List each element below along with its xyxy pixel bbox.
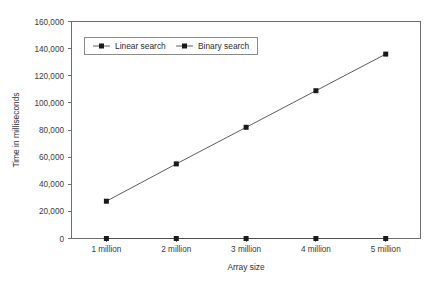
data-point-marker: [174, 236, 179, 241]
x-axis-title: Array size: [227, 262, 265, 272]
x-tick-label: 5 million: [371, 245, 401, 254]
y-tick-label: 0: [59, 235, 64, 244]
legend-marker-icon: [99, 44, 104, 49]
line-chart: 160,000 140,000 120,000 100,000 80,000 6…: [0, 0, 436, 287]
series-linear-search: [104, 52, 388, 204]
y-axis-title: Time in milliseconds: [11, 92, 21, 167]
y-tick-label: 100,000: [34, 99, 64, 108]
x-tick-label: 4 million: [301, 245, 331, 254]
data-point-marker: [383, 236, 388, 241]
y-tick-label: 160,000: [34, 18, 64, 27]
x-tick-label: 2 million: [161, 245, 191, 254]
y-tick-label: 120,000: [34, 72, 64, 81]
legend-marker-icon: [182, 44, 187, 49]
x-tick-labels: 1 million 2 million 3 million 4 million …: [91, 245, 401, 254]
legend-label: Linear search: [115, 41, 166, 51]
y-tick-label: 20,000: [39, 207, 64, 216]
data-point-marker: [313, 236, 318, 241]
data-point-marker: [383, 52, 388, 57]
legend: Linear search Binary search: [85, 38, 258, 55]
y-tick-label: 60,000: [39, 153, 64, 162]
y-tick-label: 40,000: [39, 180, 64, 189]
series-binary-search: [104, 236, 388, 241]
chart-container: 160,000 140,000 120,000 100,000 80,000 6…: [0, 0, 436, 287]
y-tick-labels: 160,000 140,000 120,000 100,000 80,000 6…: [34, 18, 64, 244]
data-point-marker: [244, 125, 249, 130]
data-point-marker: [174, 161, 179, 166]
x-tick-label: 1 million: [91, 245, 121, 254]
y-tick-label: 80,000: [39, 126, 64, 135]
data-point-marker: [244, 236, 249, 241]
data-point-marker: [104, 199, 109, 204]
x-tick-label: 3 million: [231, 245, 261, 254]
y-tick-marks: [68, 22, 72, 239]
data-point-marker: [104, 236, 109, 241]
legend-label: Binary search: [198, 41, 250, 51]
y-tick-label: 140,000: [34, 45, 64, 54]
data-point-marker: [313, 88, 318, 93]
